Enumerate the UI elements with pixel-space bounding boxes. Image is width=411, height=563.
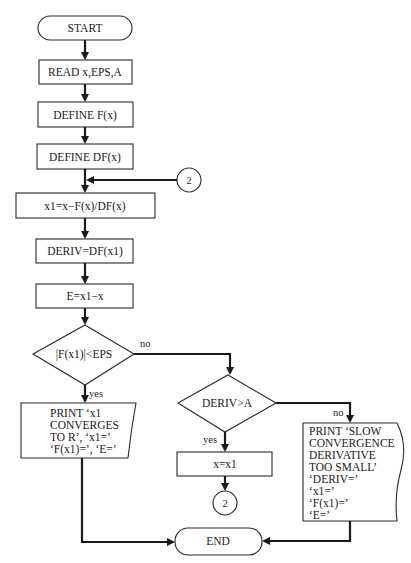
decision-eps: |F(x1)|<EPS [33, 325, 134, 385]
deriv-process: DERIV=DF(x1) [36, 239, 133, 263]
print-slow-line-3: DERIVATIVE [309, 449, 376, 461]
arrow-slow-end [264, 521, 350, 541]
decision-deriv-label: DERIV>A [202, 397, 253, 409]
arrow-eps-no [134, 354, 230, 373]
print-converges-line-2: CONVERGES [50, 419, 119, 431]
connector-2-out: 2 [213, 491, 237, 515]
connector-in-label: 2 [186, 175, 191, 186]
decision-deriv: DERIV>A [178, 375, 276, 432]
end-label: END [206, 535, 230, 547]
print-slow-line-1: PRINT ‘SLOW [309, 425, 381, 437]
end-terminal: END [175, 528, 262, 555]
connector-2-in: 2 [177, 168, 201, 192]
error-label: E=x1−x [66, 290, 103, 302]
eps-no-label: no [140, 338, 151, 349]
eps-yes-label: yes [89, 388, 103, 399]
print-slow-line-6: ‘x1=’ [309, 485, 335, 497]
deriv-label: DERIV=DF(x1) [47, 245, 123, 258]
define-df-label: DEFINE DF(x) [49, 151, 121, 164]
define-df-process: DEFINE DF(x) [37, 144, 133, 169]
deriv-yes-label: yes [203, 434, 217, 445]
print-converges-line-1: PRINT ‘x1 [50, 407, 101, 419]
start-terminal: START [38, 16, 132, 40]
print-slow-output: PRINT ‘SLOW CONVERGENCE DERIVATIVE TOO S… [303, 423, 404, 521]
newton-step-process: x1=x−F(x)/DF(x) [16, 193, 155, 218]
print-slow-line-4: TOO SMALL’ [309, 461, 377, 473]
connector-out-label: 2 [222, 498, 227, 509]
error-process: E=x1−x [36, 284, 133, 308]
read-process: READ x,EPS,A [39, 60, 132, 84]
define-f-process: DEFINE F(x) [38, 102, 133, 127]
print-slow-line-8: ‘E=’ [309, 509, 330, 521]
start-label: START [68, 22, 103, 34]
decision-eps-label: |F(x1)|<EPS [56, 348, 112, 361]
print-converges-line-4: ‘F(x1)=’, ‘E=’ [50, 443, 117, 456]
arrow-converges-end [82, 458, 173, 542]
newton-step-label: x1=x−F(x)/DF(x) [44, 200, 126, 213]
assign-process: x=x1 [177, 452, 272, 476]
assign-label: x=x1 [213, 458, 237, 470]
print-slow-line-2: CONVERGENCE [309, 437, 395, 449]
deriv-no-label: no [333, 407, 344, 418]
print-converges-output: PRINT ‘x1 CONVERGES TO R’, ‘x1=’ ‘F(x1)=… [21, 403, 136, 458]
print-slow-line-5: ‘DERIV=’ [309, 473, 358, 485]
flowchart: START READ x,EPS,A DEFINE F(x) DEFINE DF… [0, 0, 411, 563]
read-label: READ x,EPS,A [48, 66, 122, 79]
define-f-label: DEFINE F(x) [53, 109, 117, 122]
